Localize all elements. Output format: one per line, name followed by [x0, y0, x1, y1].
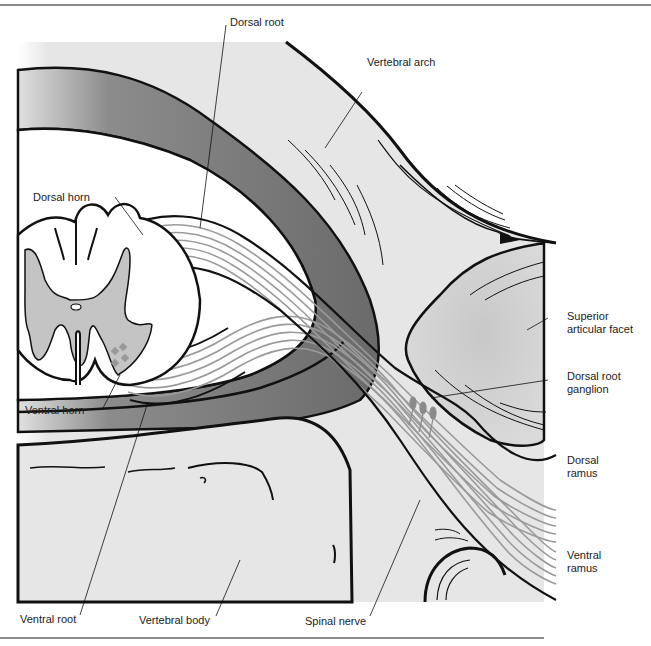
label-vertebral-arch: Vertebral arch	[367, 56, 435, 69]
central-canal	[71, 304, 81, 310]
label-vertebral-body: Vertebral body	[139, 614, 210, 627]
label-dorsal-root-ganglion: Dorsal root ganglion	[567, 370, 621, 396]
label-ventral-horn: Ventral horn	[25, 404, 84, 417]
label-dorsal-ramus: Dorsal ramus	[567, 454, 599, 480]
label-dorsal-root: Dorsal root	[230, 16, 284, 29]
spinal-anatomy-figure	[0, 0, 651, 646]
label-dorsal-horn: Dorsal horn	[33, 191, 90, 204]
label-superior-articular-facet: Superior articular facet	[567, 310, 633, 336]
label-spinal-nerve: Spinal nerve	[305, 615, 366, 628]
label-ventral-root: Ventral root	[20, 613, 76, 626]
label-ventral-ramus: Ventral ramus	[567, 549, 601, 575]
vertebral-body	[18, 418, 352, 602]
